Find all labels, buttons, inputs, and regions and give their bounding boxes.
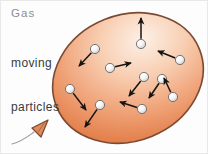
particle-bead: [175, 55, 184, 64]
particle-bead: [137, 104, 146, 113]
particle-bead: [65, 84, 74, 93]
gas-balloon-diagram: Gas moving particles: [0, 0, 208, 154]
particle-bead: [139, 72, 148, 81]
balloon-string: [12, 132, 34, 144]
particle-bead: [90, 44, 99, 53]
particle-bead: [95, 100, 104, 109]
diagram-canvas: [1, 1, 208, 154]
balloon-body: [33, 1, 208, 154]
balloon-group: [12, 1, 208, 154]
particle-bead: [168, 92, 177, 101]
particle-bead: [136, 39, 145, 48]
particle-bead: [105, 63, 114, 72]
